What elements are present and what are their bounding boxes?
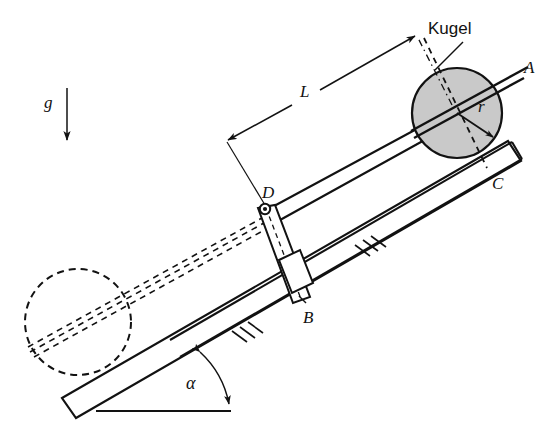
gravity-label: g bbox=[44, 93, 53, 112]
point-a-label: A bbox=[523, 58, 535, 77]
point-d-label: D bbox=[261, 183, 275, 202]
ghost-rod-line-mid bbox=[30, 223, 264, 352]
radius-label: r bbox=[478, 97, 485, 116]
ghost-ball-circle bbox=[25, 269, 131, 375]
ball-label: Kugel bbox=[428, 19, 471, 38]
lower-rail-edge-bottom bbox=[180, 159, 522, 357]
point-c-label: C bbox=[492, 174, 504, 193]
angle-alpha-arc bbox=[200, 352, 229, 404]
angle-alpha-indicator: α bbox=[186, 352, 229, 404]
angle-alpha-label: α bbox=[186, 373, 196, 393]
gravity-indicator: g bbox=[44, 88, 67, 140]
length-extension-line-left bbox=[227, 142, 265, 205]
ghost-rod-line-bottom bbox=[34, 228, 268, 357]
point-b-label: B bbox=[303, 308, 314, 327]
length-dim-arrow-right bbox=[320, 36, 415, 90]
ball-callout: Kugel bbox=[428, 19, 471, 70]
mechanism-figure: g bbox=[0, 0, 547, 436]
ball-callout-leader bbox=[435, 42, 463, 70]
pivot-center-dot-d bbox=[263, 207, 267, 211]
length-label: L bbox=[299, 82, 309, 101]
technical-diagram: g bbox=[0, 0, 547, 436]
length-dim-arrow-left bbox=[228, 105, 292, 140]
